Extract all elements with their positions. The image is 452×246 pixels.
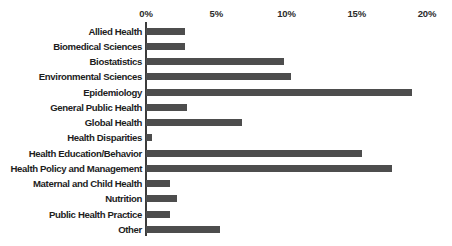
- x-axis-tick-label: 10%: [277, 8, 295, 19]
- x-axis-tick-label: 0%: [139, 8, 152, 19]
- category-label: Nutrition: [105, 191, 142, 206]
- bar-row: General Public Health: [0, 100, 452, 115]
- bar: [146, 119, 242, 126]
- x-axis-tick-labels: 0%5%10%15%20%: [0, 0, 452, 24]
- bar: [146, 58, 284, 65]
- bar: [146, 104, 187, 111]
- bar-row: Global Health: [0, 115, 452, 130]
- bar: [146, 89, 412, 96]
- category-label: Health Policy and Management: [11, 161, 142, 176]
- bar: [146, 180, 170, 187]
- x-axis-tick-label: 20%: [418, 8, 436, 19]
- bar-row: Biomedical Sciences: [0, 39, 452, 54]
- bar-row: Health Policy and Management: [0, 161, 452, 176]
- bar-row: Maternal and Child Health: [0, 176, 452, 191]
- bar: [146, 28, 185, 35]
- x-axis-tick-label: 15%: [348, 8, 366, 19]
- bar-row: Epidemiology: [0, 85, 452, 100]
- x-axis-tick-label: 5%: [210, 8, 223, 19]
- category-label: Public Health Practice: [49, 207, 142, 222]
- category-label: Other: [118, 222, 142, 237]
- category-label: Global Health: [85, 115, 142, 130]
- category-label: Biomedical Sciences: [53, 39, 142, 54]
- bar: [146, 73, 291, 80]
- bar: [146, 226, 220, 233]
- category-label: Health Education/Behavior: [29, 146, 142, 161]
- category-label: Maternal and Child Health: [33, 176, 142, 191]
- bar-row: Health Education/Behavior: [0, 146, 452, 161]
- bar-chart: 0%5%10%15%20% Allied HealthBiomedical Sc…: [0, 0, 452, 246]
- bar-row: Allied Health: [0, 24, 452, 39]
- category-label: Environmental Sciences: [39, 69, 142, 84]
- bar-row: Public Health Practice: [0, 207, 452, 222]
- category-label: Epidemiology: [83, 85, 142, 100]
- bar: [146, 211, 170, 218]
- bar-row: Health Disparities: [0, 130, 452, 145]
- bar-row: Biostatistics: [0, 54, 452, 69]
- bar: [146, 195, 177, 202]
- bar-row: Other: [0, 222, 452, 237]
- category-label: General Public Health: [50, 100, 142, 115]
- bar: [146, 150, 362, 157]
- bar: [146, 43, 185, 50]
- category-label: Biostatistics: [90, 54, 143, 69]
- category-label: Health Disparities: [67, 130, 142, 145]
- bar-row: Environmental Sciences: [0, 69, 452, 84]
- bar-row: Nutrition: [0, 191, 452, 206]
- bar: [146, 165, 392, 172]
- category-label: Allied Health: [88, 24, 142, 39]
- bar: [146, 134, 152, 141]
- plot-area: Allied HealthBiomedical SciencesBiostati…: [0, 22, 452, 246]
